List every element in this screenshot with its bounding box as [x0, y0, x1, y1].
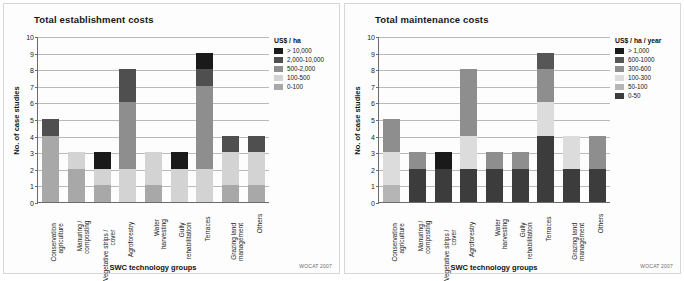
bar-segment	[563, 136, 580, 169]
legend-item[interactable]: 0-100	[274, 83, 338, 90]
bar-slot	[64, 37, 90, 202]
stacked-bar[interactable]	[119, 69, 136, 202]
bar-segment	[435, 169, 452, 202]
x-category-label: Terraces	[204, 216, 211, 241]
bar-slot	[584, 37, 610, 202]
stacked-bar[interactable]	[94, 152, 111, 202]
legend-item[interactable]: 500-2,000	[274, 65, 338, 72]
bar-segment	[512, 169, 529, 202]
legend-item[interactable]: > 1,000	[615, 47, 679, 54]
bar-segment	[486, 169, 503, 202]
bar-slot	[141, 37, 167, 202]
legend-label: 0-50	[628, 92, 641, 99]
bar-segment	[68, 152, 85, 169]
y-tick-label: 1	[371, 183, 375, 190]
stacked-bar[interactable]	[196, 53, 213, 202]
y-tick-label: 0	[371, 200, 375, 207]
x-category-3: Vegetative strips /cover	[430, 204, 456, 262]
bar-slot	[243, 37, 269, 202]
bar-segment	[196, 53, 213, 70]
x-category-2: Manuring /composting	[404, 204, 430, 262]
legend-swatch-icon	[615, 48, 624, 54]
stacked-bar[interactable]	[486, 152, 503, 202]
bar-segment	[119, 102, 136, 168]
bar-segment	[537, 53, 554, 70]
credit-text-2: WOCAT 2007	[640, 263, 673, 269]
bar-segment	[248, 152, 265, 185]
legend-label: 100-300	[628, 74, 651, 81]
bar-slot	[430, 37, 456, 202]
legend-swatch-icon	[274, 57, 283, 63]
chart-panel-maintenance: Total maintenance costs No. of case stud…	[344, 3, 681, 274]
bar-segment	[171, 169, 188, 202]
stacked-bar[interactable]	[248, 136, 265, 202]
stacked-bar[interactable]	[42, 119, 59, 202]
stacked-bar[interactable]	[68, 152, 85, 202]
y-tick-label: 10	[26, 34, 34, 41]
bar-segment	[248, 185, 265, 202]
legend-label: 500-2,000	[287, 65, 315, 72]
bar-segment	[512, 152, 529, 169]
bar-slot	[89, 37, 115, 202]
x-category-5: Waterharvesting	[481, 204, 507, 262]
y-axis-label: No. of case studies	[10, 37, 22, 203]
bar-segment	[460, 169, 477, 202]
x-category-1: Conservationagriculture	[378, 204, 404, 262]
bar-slot	[192, 37, 218, 202]
bar-slot	[166, 37, 192, 202]
x-category-label: Others	[597, 214, 604, 234]
stacked-bar[interactable]	[171, 152, 188, 202]
stacked-bar[interactable]	[145, 152, 162, 202]
legend-swatch-icon	[615, 66, 624, 72]
legend-item[interactable]: 300-600	[615, 65, 679, 72]
plot-area-maintenance: 012345678910	[378, 37, 610, 203]
x-category-2: Manuring /composting	[63, 204, 89, 262]
stacked-bar[interactable]	[460, 69, 477, 202]
stacked-bar[interactable]	[589, 136, 606, 202]
stacked-bar[interactable]	[409, 152, 426, 202]
x-category-1: Conservationagriculture	[37, 204, 63, 262]
y-tick-label: 3	[371, 150, 375, 157]
x-category-label: Agroforestry	[127, 222, 134, 257]
x-category-8: Grazing landmanagement	[217, 204, 243, 262]
x-category-9: Others	[584, 204, 610, 262]
legend-item[interactable]: 2,000-10,000	[274, 56, 338, 63]
bar-segment	[119, 69, 136, 102]
bar-segment	[222, 185, 239, 202]
legend-item[interactable]: 100-500	[274, 74, 338, 81]
legend-item[interactable]: 100-300	[615, 74, 679, 81]
stacked-bar[interactable]	[435, 152, 452, 202]
legend-label: > 1,000	[628, 47, 649, 54]
bar-segment	[589, 136, 606, 169]
x-axis-categories: ConservationagricultureManuring /compost…	[378, 204, 610, 262]
legend-label: 0-100	[287, 83, 303, 90]
x-category-5: Waterharvesting	[140, 204, 166, 262]
y-tick-label: 6	[371, 100, 375, 107]
legend-item[interactable]: 0-50	[615, 92, 679, 99]
legend-label: 2,000-10,000	[287, 56, 324, 63]
legend-item[interactable]: > 10,000	[274, 47, 338, 54]
bar-segment	[248, 136, 265, 153]
x-axis-label-2: SWC technology groups	[378, 263, 610, 272]
bar-slot	[218, 37, 244, 202]
bar-segment	[537, 102, 554, 135]
bar-segment	[68, 169, 85, 202]
legend-item[interactable]: 50-100	[615, 83, 679, 90]
x-category-label: Agroforestry	[468, 222, 475, 257]
bar-segment	[94, 169, 111, 186]
stacked-bar[interactable]	[512, 152, 529, 202]
stacked-bar[interactable]	[383, 119, 400, 202]
stacked-bar[interactable]	[222, 136, 239, 202]
y-tick-label: 3	[30, 150, 34, 157]
bar-segment	[383, 152, 400, 185]
x-category-9: Others	[243, 204, 269, 262]
bar-segment	[196, 86, 213, 169]
stacked-bar[interactable]	[563, 136, 580, 202]
bar-segment	[171, 152, 188, 169]
x-axis-label: SWC technology groups	[37, 263, 269, 272]
legend-item[interactable]: 600-1000	[615, 56, 679, 63]
legend-label: 600-1000	[628, 56, 655, 63]
y-tick-label: 5	[371, 117, 375, 124]
stacked-bar[interactable]	[537, 53, 554, 202]
x-category-8: Grazing landmanagement	[558, 204, 584, 262]
